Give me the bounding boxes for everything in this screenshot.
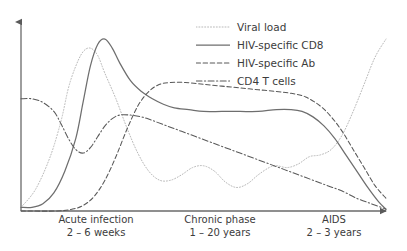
legend-label-viral-load: Viral load (237, 21, 286, 33)
legend-label-hiv-specific-cd8: HIV-specific CD8 (237, 39, 323, 51)
legend-swatch-cd4-t-cells-icon (196, 75, 230, 87)
phase-label-aids: AIDS 2 – 3 years (264, 213, 404, 239)
chart-legend: Viral load HIV-specific CD8 HIV-specific… (196, 18, 396, 90)
legend-swatch-hiv-specific-ab-icon (196, 57, 230, 69)
phase-label-acute-infection: Acute infection 2 – 6 weeks (26, 213, 166, 239)
series-line-hiv-specific-ab (21, 82, 386, 211)
hiv-infection-course-chart: Viral load HIV-specific CD8 HIV-specific… (0, 0, 407, 251)
legend-item-hiv-specific-cd8: HIV-specific CD8 (196, 36, 396, 54)
legend-swatch-viral-load-icon (196, 21, 230, 33)
legend-label-cd4-t-cells: CD4 T cells (237, 75, 296, 87)
legend-item-cd4-t-cells: CD4 T cells (196, 72, 396, 90)
legend-item-viral-load: Viral load (196, 18, 396, 36)
legend-label-hiv-specific-ab: HIV-specific Ab (237, 57, 315, 69)
series-line-cd4-t-cells (21, 99, 386, 210)
legend-item-hiv-specific-ab: HIV-specific Ab (196, 54, 396, 72)
phase-axis-labels: Acute infection 2 – 6 weeks Chronic phas… (0, 213, 407, 251)
legend-swatch-hiv-specific-cd8-icon (196, 39, 230, 51)
